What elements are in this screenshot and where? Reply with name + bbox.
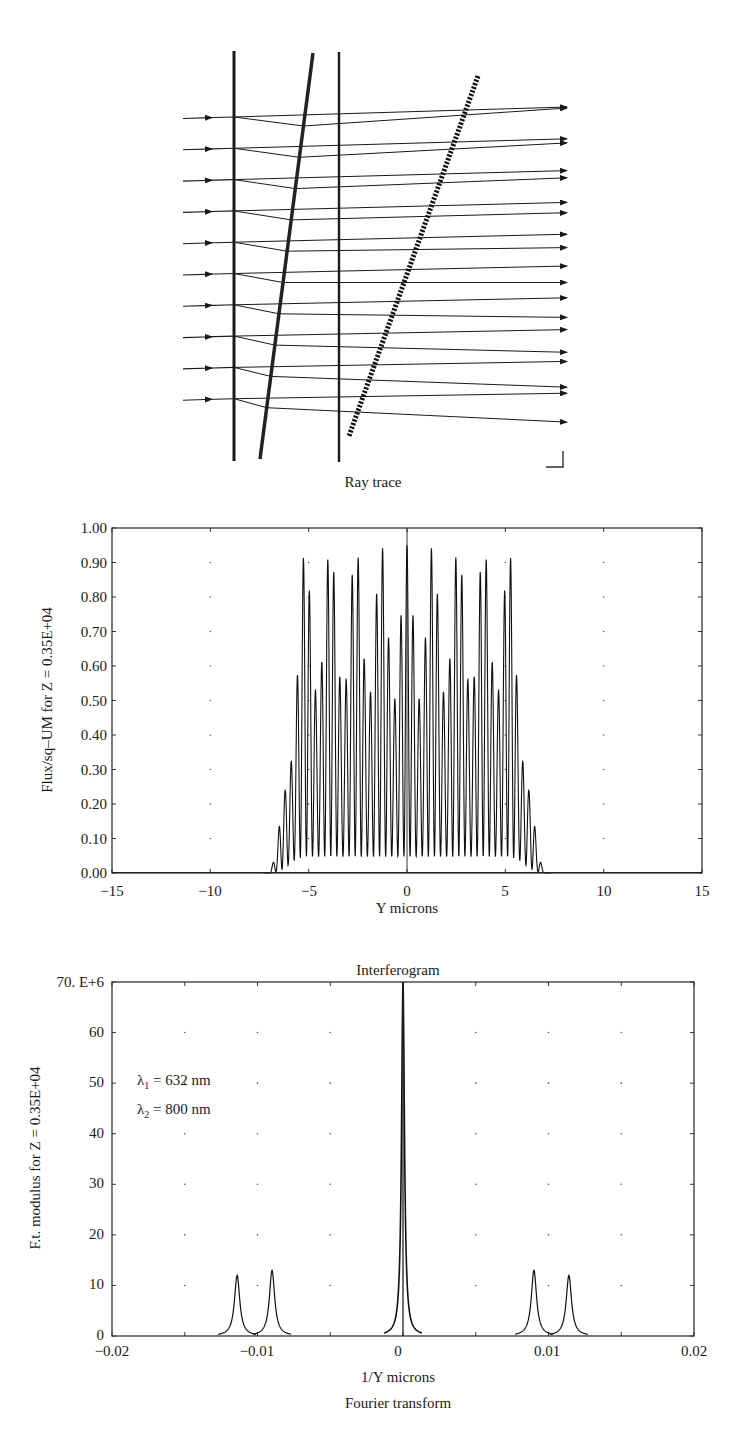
lambda1-annotation: λ1 = 632 nm bbox=[137, 1072, 211, 1091]
ft-x-tick: −0.02 bbox=[95, 1343, 130, 1359]
ft-y-tick: 10 bbox=[89, 1276, 104, 1292]
ft-y-tick: 30 bbox=[89, 1175, 104, 1191]
ft-y-tick: 0 bbox=[97, 1327, 105, 1343]
flux-y-axis-label: Flux/sq–UM for Z = 0.35E+04 bbox=[39, 607, 55, 793]
flux-y-tick: 0.40 bbox=[81, 727, 107, 743]
ft-x-tick: 0 bbox=[394, 1343, 402, 1359]
lambda2-annotation: λ2 = 800 nm bbox=[137, 1101, 211, 1120]
flux-x-tick: 0 bbox=[403, 883, 411, 899]
flux-x-tick: −10 bbox=[198, 883, 221, 899]
ft-y-tick: 70. E+6 bbox=[56, 974, 104, 990]
ft-y-tick: 50 bbox=[89, 1074, 104, 1090]
flux-x-axis-label: Y microns bbox=[376, 900, 439, 916]
flux-x-tick: −15 bbox=[100, 883, 123, 899]
flux-y-tick: 0.30 bbox=[81, 762, 107, 778]
flux-x-tick: 10 bbox=[597, 883, 612, 899]
ft-x-axis-label: 1/Y microns bbox=[361, 1369, 435, 1385]
ft-y-tick: 20 bbox=[89, 1226, 104, 1242]
ft-x-tick: −0.01 bbox=[240, 1343, 275, 1359]
flux-y-tick: 1.00 bbox=[81, 520, 107, 536]
ft-y-tick: 40 bbox=[89, 1125, 104, 1141]
ft-title: Interferogram bbox=[356, 962, 440, 978]
flux-y-tick: 0.70 bbox=[81, 624, 107, 640]
flux-y-tick: 0.00 bbox=[81, 865, 107, 881]
ft-x-tick-labels: −0.02 −0.01 0 0.01 0.02 bbox=[95, 1343, 707, 1359]
flux-y-tick: 0.20 bbox=[81, 796, 107, 812]
ray-trace-caption: Ray trace bbox=[344, 474, 401, 490]
flux-x-tick: −5 bbox=[301, 883, 317, 899]
flux-x-tick-labels: −15 −10 −5 0 5 10 15 bbox=[100, 883, 709, 899]
flux-y-tick: 0.90 bbox=[81, 555, 107, 571]
ft-y-tick-labels: 0 10 20 30 40 50 60 70. E+6 bbox=[56, 974, 104, 1343]
flux-y-tick: 0.50 bbox=[81, 693, 107, 709]
corner-mark bbox=[546, 451, 563, 467]
flux-y-tick: 0.60 bbox=[81, 658, 107, 674]
ft-x-tick: 0.01 bbox=[534, 1343, 560, 1359]
flux-x-tick: 5 bbox=[501, 883, 509, 899]
flux-x-tick: 15 bbox=[695, 883, 710, 899]
ft-x-tick: 0.02 bbox=[681, 1343, 707, 1359]
ft-y-tick: 60 bbox=[89, 1024, 104, 1040]
ft-caption: Fourier transform bbox=[345, 1395, 452, 1411]
ray-bundle bbox=[183, 107, 567, 422]
ft-y-axis-label: F.t. modulus for Z = 0.35E+04 bbox=[27, 1066, 43, 1250]
flux-y-tick: 0.80 bbox=[81, 589, 107, 605]
flux-y-tick: 0.10 bbox=[81, 831, 107, 847]
ray-trace-diagram: Ray trace bbox=[0, 0, 746, 500]
flux-y-tick-labels: 0.00 0.10 0.20 0.30 0.40 0.50 0.60 0.70 … bbox=[81, 520, 107, 881]
